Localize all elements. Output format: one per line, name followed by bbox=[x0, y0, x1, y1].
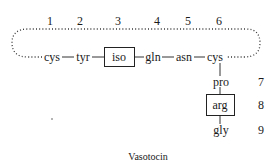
residue-asn: asn bbox=[176, 51, 192, 63]
residue-cys-1: cys bbox=[44, 51, 60, 63]
speck bbox=[51, 118, 53, 120]
residue-tyr: tyr bbox=[76, 51, 89, 63]
residue-pro: pro bbox=[213, 76, 229, 88]
position-4: 4 bbox=[154, 15, 160, 27]
position-2: 2 bbox=[77, 15, 83, 27]
residue-gln: gln bbox=[145, 51, 160, 63]
residue-arg: arg bbox=[212, 99, 227, 111]
position-3: 3 bbox=[115, 15, 121, 27]
caption: Vasotocin bbox=[128, 151, 167, 163]
position-9: 9 bbox=[258, 124, 264, 136]
diagram-lines bbox=[0, 0, 278, 168]
residue-cys-6: cys bbox=[207, 51, 223, 63]
position-8: 8 bbox=[258, 99, 264, 111]
position-6: 6 bbox=[216, 15, 222, 27]
position-1: 1 bbox=[47, 15, 53, 27]
residue-gly: gly bbox=[213, 124, 228, 136]
position-7: 7 bbox=[258, 76, 264, 88]
residue-iso: iso bbox=[112, 51, 126, 63]
position-5: 5 bbox=[185, 15, 191, 27]
